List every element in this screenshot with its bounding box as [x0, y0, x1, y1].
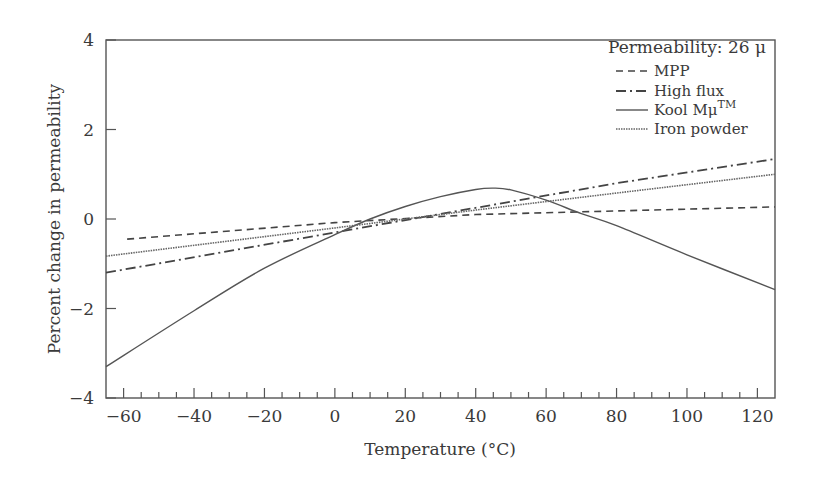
y-tick-label: 2	[83, 120, 94, 140]
y-axis: −4−2024	[69, 30, 116, 408]
x-tick-label: −20	[247, 406, 283, 426]
y-tick-label: 4	[83, 30, 94, 50]
x-tick-label: 0	[329, 406, 340, 426]
legend-title: Permeability: 26 μ	[608, 37, 766, 57]
legend-entry: MPP	[654, 62, 690, 80]
series-lines	[106, 159, 775, 367]
x-tick-label: 80	[606, 406, 628, 426]
x-tick-label: 100	[671, 406, 703, 426]
y-tick-label: 0	[83, 209, 94, 229]
series-line-iron-powder	[106, 174, 775, 256]
legend-entry: Iron powder	[654, 120, 749, 138]
y-tick-label: −4	[69, 388, 94, 408]
legend-entry: High flux	[654, 82, 725, 100]
legend-entry: Kool MμTM	[654, 98, 736, 119]
x-tick-label: −60	[106, 406, 142, 426]
legend: Permeability: 26 μ MPPHigh fluxKool MμTM…	[608, 37, 766, 138]
x-axis: −60−40−20020406080100120	[106, 388, 774, 426]
x-tick-label: 60	[535, 406, 557, 426]
y-tick-label: −2	[69, 299, 94, 319]
series-line-kool-m-	[106, 188, 775, 367]
x-axis-title: Temperature (°C)	[364, 439, 516, 459]
x-tick-label: −40	[176, 406, 212, 426]
y-axis-title: Percent change in permeability	[44, 83, 64, 354]
chart: −60−40−20020406080100120 −4−2024 Tempera…	[0, 0, 817, 478]
series-line-mpp	[127, 207, 775, 239]
x-tick-label: 120	[741, 406, 773, 426]
x-tick-label: 20	[394, 406, 416, 426]
x-tick-label: 40	[465, 406, 487, 426]
